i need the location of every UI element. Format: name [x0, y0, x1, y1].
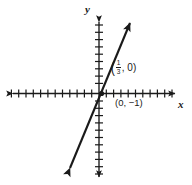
x-intercept-fraction: 1 3	[116, 60, 122, 76]
fraction-numerator: 1	[116, 60, 122, 67]
x-intercept-point-marker	[99, 91, 104, 96]
coordinate-plane-figure: y x ( 1 3 , 0) (0, −1)	[0, 0, 192, 185]
x-intercept-label: ( 1 3 , 0)	[110, 60, 136, 76]
y-intercept-label: (0, −1)	[115, 98, 143, 108]
x-axis	[11, 90, 175, 98]
y-axis-label: y	[85, 4, 90, 15]
x-axis-label: x	[178, 99, 184, 110]
fraction-denominator: 3	[116, 69, 122, 76]
x-intercept-open-paren: (	[111, 61, 115, 75]
graph-canvas	[0, 0, 192, 185]
x-intercept-label-rest: , 0)	[122, 63, 136, 73]
